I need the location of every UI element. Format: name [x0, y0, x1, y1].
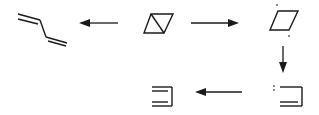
- arrow-left-icon: [195, 88, 242, 96]
- butadiene-molecule: [18, 14, 67, 46]
- arrow-left-icon: [79, 19, 118, 27]
- diradical-molecule: [270, 4, 298, 37]
- lone-pair-icon: [273, 85, 275, 87]
- arrow-down-icon: [279, 46, 287, 73]
- radical-dot-icon: [288, 35, 290, 37]
- bicyclobutane-molecule: [144, 14, 173, 33]
- alkene-product-molecule: [152, 87, 172, 106]
- reaction-scheme: [0, 0, 319, 115]
- arrow-right-icon: [191, 19, 239, 27]
- radical-dot-icon: [276, 4, 278, 6]
- carbene-molecule: [273, 85, 302, 106]
